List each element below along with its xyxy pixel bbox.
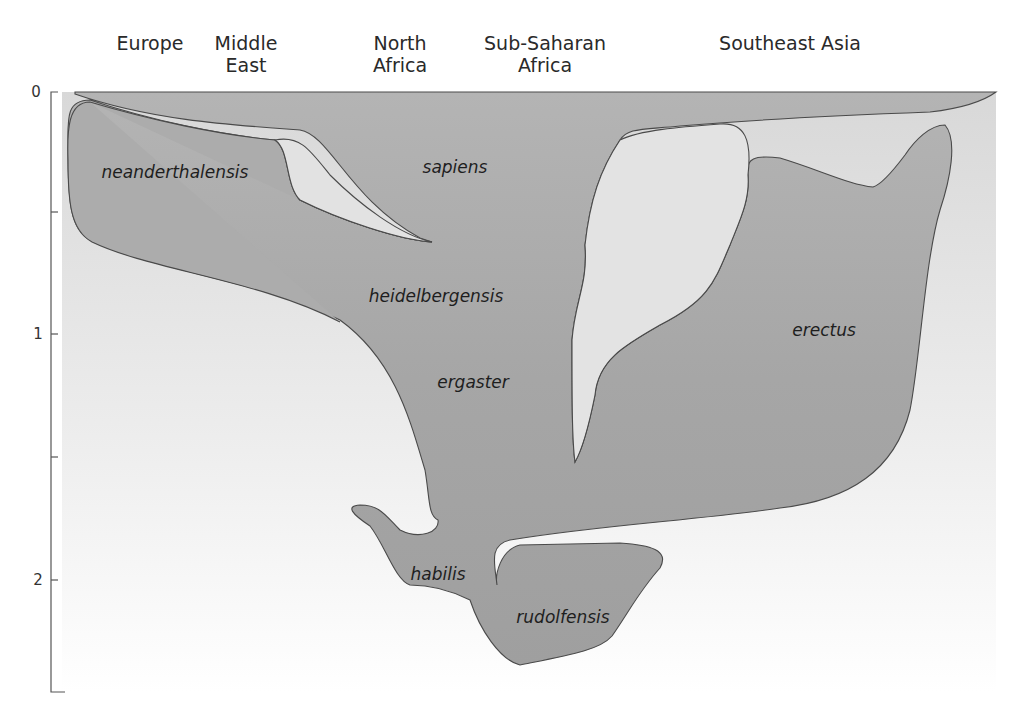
axis-tick-label-1: 1	[33, 325, 43, 343]
species-label-neanderthalensis: neanderthalensis	[102, 162, 249, 182]
axis-tick-label-0: 0	[31, 83, 41, 101]
species-label-habilis: habilis	[410, 564, 465, 584]
phylogeny-diagram: neanderthalensis sapiens heidelbergensis…	[0, 0, 1016, 719]
species-label-ergaster: ergaster	[437, 372, 510, 392]
species-label-heidelbergensis: heidelbergensis	[369, 286, 504, 306]
axis-tick-label-2: 2	[33, 571, 43, 589]
species-label-sapiens: sapiens	[423, 157, 488, 177]
species-label-erectus: erectus	[792, 320, 856, 340]
species-label-rudolfensis: rudolfensis	[516, 607, 609, 627]
